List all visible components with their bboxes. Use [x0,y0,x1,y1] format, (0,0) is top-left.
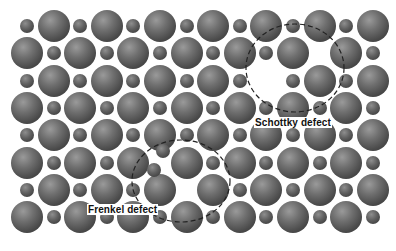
large-ion [357,65,389,97]
large-ion [357,174,389,206]
small-ion [47,156,61,170]
large-ion [11,201,43,233]
small-ion [313,101,327,115]
small-ion [206,46,220,60]
small-ion [259,156,273,170]
large-ion [171,92,203,124]
large-ion [91,119,123,151]
large-ion [330,92,362,124]
large-ion [197,10,229,42]
large-ion [38,10,70,42]
large-ion [117,147,149,179]
large-ion [357,119,389,151]
large-ion [91,174,123,206]
large-ion [11,92,43,124]
small-ion [259,46,273,60]
small-ion [339,19,353,33]
large-ion [197,65,229,97]
small-ion [313,156,327,170]
small-ion [126,19,140,33]
large-ion [11,147,43,179]
small-ion [233,19,247,33]
large-ion [224,147,256,179]
large-ion [117,37,149,69]
small-ion [206,101,220,115]
large-ion [357,10,389,42]
large-ion [11,37,43,69]
small-ion [259,210,273,224]
small-ion [339,74,353,88]
small-ion [47,46,61,60]
large-ion [171,201,203,233]
small-ion [366,210,380,224]
large-ion [38,174,70,206]
small-ion [73,19,87,33]
small-ion [286,74,300,88]
large-ion [330,37,362,69]
schottky-defect-label: Schottky defect [254,117,332,128]
large-ion [250,10,282,42]
large-ion [144,65,176,97]
interstitial-ion [147,163,161,177]
large-ion [224,201,256,233]
small-ion [233,183,247,197]
large-ion [171,147,203,179]
large-ion [277,201,309,233]
small-ion [153,46,167,60]
small-ion [180,19,194,33]
large-ion [304,65,336,97]
small-ion [47,210,61,224]
large-ion [38,119,70,151]
small-ion [47,101,61,115]
small-ion [20,74,34,88]
small-ion [153,101,167,115]
large-ion [197,119,229,151]
small-ion [20,128,34,142]
small-ion [286,183,300,197]
small-ion [100,46,114,60]
large-ion [64,92,96,124]
large-ion [197,174,229,206]
large-ion [64,147,96,179]
small-ion [20,183,34,197]
large-ion [304,10,336,42]
small-ion [286,128,300,142]
small-ion [73,128,87,142]
small-ion [366,101,380,115]
small-ion [180,128,194,142]
small-ion [126,183,140,197]
small-ion [100,101,114,115]
large-ion [117,92,149,124]
large-ion [250,174,282,206]
crystal-lattice-diagram: Schottky defect Frenkel defect [0,0,396,251]
small-ion [313,210,327,224]
large-ion [330,147,362,179]
large-ion [38,65,70,97]
small-ion [286,19,300,33]
interstitial-ion [156,144,170,158]
small-ion [73,183,87,197]
small-ion [73,74,87,88]
large-ion [144,10,176,42]
large-ion [91,10,123,42]
large-ion [171,37,203,69]
small-ion [206,156,220,170]
small-ion [126,74,140,88]
small-ion [233,74,247,88]
large-ion [277,37,309,69]
small-ion [100,156,114,170]
small-ion [366,156,380,170]
large-ion [224,92,256,124]
large-ion [91,65,123,97]
large-ion [64,37,96,69]
small-ion [233,128,247,142]
small-ion [339,128,353,142]
large-ion [224,37,256,69]
frenkel-defect-label: Frenkel defect [87,204,158,215]
small-ion [339,183,353,197]
small-ion [206,210,220,224]
large-ion [277,147,309,179]
small-ion [366,46,380,60]
small-ion [20,19,34,33]
small-ion [180,74,194,88]
